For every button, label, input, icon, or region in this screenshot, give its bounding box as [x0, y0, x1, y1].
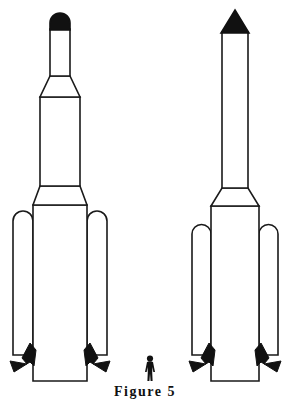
right-vehicle-upper-tube: [222, 32, 248, 188]
left-vehicle-upper-tube: [50, 29, 70, 76]
figure-caption: Figure 5: [0, 384, 290, 400]
left-vehicle-second-stage: [40, 97, 80, 186]
right-vehicle-booster-right: [259, 225, 278, 356]
right-vehicle-booster-left: [192, 225, 211, 356]
right-vehicle-core-stage: [211, 206, 259, 381]
left-vehicle-nose-dome: [50, 13, 70, 30]
left-vehicle-core-stage: [33, 205, 87, 381]
left-vehicle-booster-left: [13, 211, 33, 355]
human-head: [147, 355, 153, 361]
left-vehicle-lower-interstage: [33, 186, 87, 205]
figure-illustration: [0, 0, 290, 411]
left-vehicle-booster-right: [87, 211, 107, 355]
